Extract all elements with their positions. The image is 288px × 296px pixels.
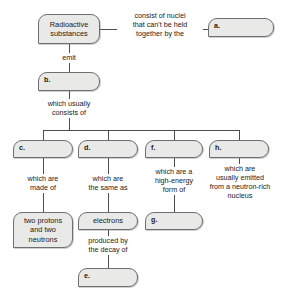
connector-label-which-are-usually-emitted: which areusually emittedfrom a neutron-r… [204, 164, 276, 200]
node-blank-d[interactable]: d. [78, 140, 138, 158]
node-electrons[interactable]: electrons [78, 212, 138, 230]
node-label: two protonsand twoneutrons [24, 216, 62, 243]
node-label: electrons [93, 216, 123, 225]
node-label: f. [146, 141, 155, 153]
node-label: g. [146, 213, 157, 225]
node-label: c. [14, 141, 25, 153]
connector-label-which-are-a-high-energy-form-of: which are ahigh-energyform of [146, 167, 202, 194]
connector-label-which-usually-consists-of: which usuallyconsists of [42, 99, 96, 117]
node-blank-c[interactable]: c. [13, 140, 73, 158]
node-label: e. [79, 269, 90, 281]
node-blank-g[interactable]: g. [145, 212, 203, 230]
node-two-protons-and-two-neutrons[interactable]: two protonsand twoneutrons [13, 212, 73, 248]
node-radioactive-substances[interactable]: Radioactivesubstances [38, 14, 100, 44]
connector-label-emit: emit [44, 53, 94, 62]
node-blank-a[interactable]: a. [208, 18, 274, 37]
node-label: Radioactivesubstances [50, 20, 89, 38]
node-blank-e[interactable]: e. [78, 268, 138, 287]
node-blank-f[interactable]: f. [145, 140, 203, 158]
connector-label-consist-of-nuclei: consist of nucleithat can't be heldtoget… [118, 11, 202, 38]
node-label: d. [79, 141, 90, 153]
node-label: b. [39, 73, 50, 85]
connector-label-which-are-made-of: which aremade of [15, 174, 71, 192]
node-label: a. [209, 19, 220, 31]
node-blank-h[interactable]: h. [209, 140, 269, 158]
concept-map-diagram: Radioactivesubstances a. b. c. d. f. h. … [0, 0, 288, 296]
node-label: h. [210, 141, 221, 153]
node-blank-b[interactable]: b. [38, 72, 100, 91]
connector-label-which-are-the-same-as: which arethe same as [80, 174, 136, 192]
connector-label-produced-by-the-decay-of: produced bythe decay of [80, 236, 136, 254]
